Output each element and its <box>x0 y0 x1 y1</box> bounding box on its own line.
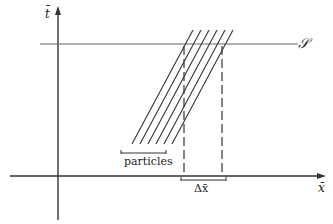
particles-bracket <box>121 150 166 154</box>
spacetime-diagram <box>0 0 333 224</box>
delta-x-label: Δx̄ <box>194 182 208 195</box>
particle-worldlines <box>132 30 233 144</box>
t-axis-label: t̄ <box>45 7 50 21</box>
t-axis <box>55 6 61 220</box>
delta-x-bracket <box>181 177 226 181</box>
x-axis-label: x̄ <box>318 181 325 195</box>
surface-label: 𝒮 <box>298 35 309 52</box>
particles-label: particles <box>124 155 173 168</box>
